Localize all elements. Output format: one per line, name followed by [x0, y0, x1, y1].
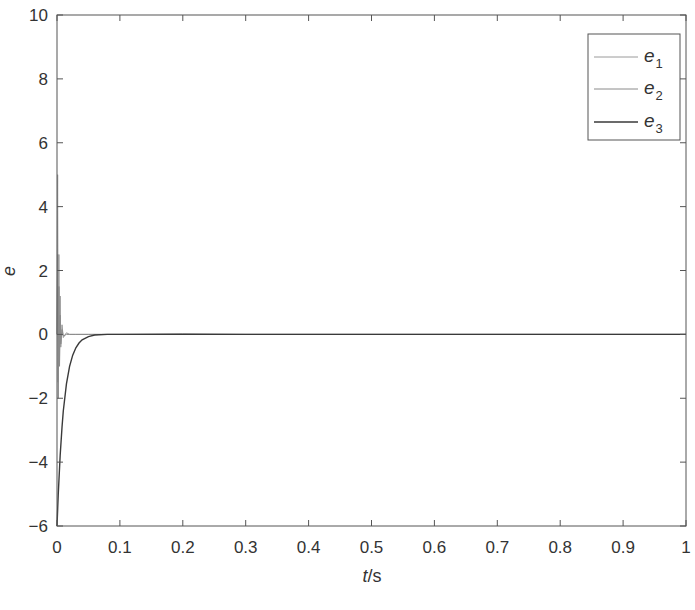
x-tick-label: 0.1: [108, 538, 132, 557]
line-chart: 00.10.20.30.40.50.60.70.80.91−6−4−202468…: [0, 0, 695, 610]
legend-box: [588, 34, 680, 140]
y-axis-label: e: [0, 266, 19, 276]
y-tick-label: 8: [39, 70, 48, 89]
y-tick-label: −2: [29, 389, 48, 408]
series-e1-line: [57, 175, 686, 383]
series-layer: [57, 175, 686, 526]
x-axis-label: t/s: [362, 566, 381, 586]
x-tick-label: 0.7: [485, 538, 509, 557]
x-tick-label: 0.2: [171, 538, 195, 557]
x-tick-label: 0.5: [360, 538, 384, 557]
x-tick-label: 0.8: [548, 538, 572, 557]
y-tick-label: 6: [39, 134, 48, 153]
series-e3-line: [57, 334, 686, 526]
legend: e1e2e3: [588, 34, 680, 140]
series-e2-line: [57, 255, 686, 399]
x-tick-label: 0.9: [611, 538, 635, 557]
y-tick-label: 2: [39, 262, 48, 281]
y-tick-label: 0: [39, 325, 48, 344]
x-tick-label: 0.4: [297, 538, 321, 557]
x-tick-label: 0.3: [234, 538, 258, 557]
x-axis-label-unit: /s: [368, 566, 382, 586]
x-tick-label: 0.6: [423, 538, 447, 557]
y-tick-label: −4: [29, 453, 48, 472]
y-tick-label: −6: [29, 517, 48, 536]
x-tick-label: 0: [52, 538, 61, 557]
y-tick-label: 4: [39, 198, 48, 217]
y-tick-label: 10: [29, 6, 48, 25]
x-tick-label: 1: [681, 538, 690, 557]
